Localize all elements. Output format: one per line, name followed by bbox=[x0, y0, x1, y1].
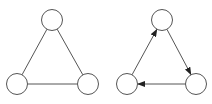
node-bottom-right bbox=[78, 74, 99, 95]
edge-top-to-bottom-right bbox=[167, 29, 191, 74]
directed-cycle-graph bbox=[117, 10, 207, 95]
undirected-triangle-graph bbox=[7, 10, 99, 95]
graph-diagrams-canvas bbox=[0, 0, 212, 104]
node-bottom-left bbox=[117, 74, 138, 95]
edge-top-to-bottom-right bbox=[57, 29, 83, 75]
node-top bbox=[152, 10, 173, 31]
edge-top-to-bottom-left bbox=[22, 29, 47, 75]
node-top bbox=[42, 10, 63, 31]
edge-bottom-left-to-top bbox=[132, 29, 157, 75]
node-bottom-left bbox=[7, 74, 28, 95]
node-bottom-right bbox=[186, 74, 207, 95]
